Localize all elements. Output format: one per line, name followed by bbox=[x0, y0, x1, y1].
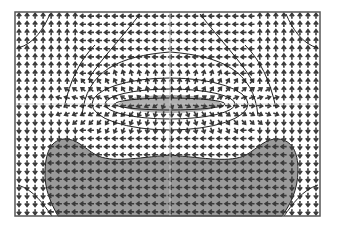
vector-arrow-icon bbox=[33, 177, 37, 183]
vector-arrow-icon bbox=[298, 111, 302, 117]
vector-arrow-icon bbox=[25, 144, 29, 150]
vector-arrow-icon bbox=[161, 63, 167, 67]
vector-arrow-icon bbox=[25, 201, 29, 207]
vector-arrow-icon bbox=[153, 144, 159, 148]
vector-arrow-icon bbox=[33, 136, 37, 142]
vector-arrow-icon bbox=[25, 13, 29, 19]
vector-arrow-icon bbox=[41, 70, 45, 76]
vector-arrow-icon bbox=[25, 209, 29, 215]
vector-arrow-icon bbox=[298, 79, 302, 85]
vector-arrow-icon bbox=[113, 22, 119, 26]
vector-arrow-icon bbox=[258, 136, 262, 142]
vector-arrow-icon bbox=[145, 30, 151, 34]
vector-arrow-icon bbox=[225, 55, 231, 59]
vector-arrow-icon bbox=[241, 14, 247, 18]
vector-arrow-icon bbox=[201, 22, 207, 26]
vector-arrow-icon bbox=[65, 46, 69, 52]
vector-arrow-icon bbox=[298, 46, 302, 52]
vector-arrow-icon bbox=[258, 38, 262, 44]
vector-arrow-icon bbox=[33, 46, 37, 52]
vector-arrow-icon bbox=[33, 144, 37, 150]
vector-arrow-icon bbox=[298, 209, 302, 215]
vector-arrow-icon bbox=[73, 88, 78, 92]
vector-arrow-icon bbox=[17, 177, 21, 183]
vector-arrow-icon bbox=[137, 22, 143, 26]
vector-arrow-icon bbox=[233, 153, 239, 157]
vector-arrow-icon bbox=[41, 62, 45, 68]
vector-arrow-icon bbox=[105, 144, 111, 148]
vector-arrow-icon bbox=[266, 13, 270, 19]
vector-arrow-icon bbox=[49, 70, 53, 76]
vector-arrow-icon bbox=[306, 95, 310, 101]
vector-arrow-icon bbox=[25, 95, 29, 101]
vector-arrow-icon bbox=[306, 168, 310, 174]
vector-arrow-icon bbox=[306, 111, 310, 117]
vector-arrow-icon bbox=[177, 136, 183, 140]
vector-arrow-icon bbox=[258, 70, 262, 76]
vector-arrow-icon bbox=[185, 153, 191, 157]
vector-arrow-icon bbox=[258, 30, 262, 36]
vector-arrow-icon bbox=[113, 14, 119, 18]
vector-arrow-icon bbox=[80, 38, 86, 42]
vector-arrow-icon bbox=[314, 30, 318, 36]
vector-arrow-icon bbox=[209, 14, 215, 18]
vector-arrow-icon bbox=[201, 144, 207, 148]
vector-arrow-icon bbox=[17, 136, 21, 142]
vector-arrow-icon bbox=[73, 96, 78, 100]
vector-arrow-icon bbox=[65, 128, 69, 134]
vector-arrow-icon bbox=[89, 128, 95, 132]
vector-arrow-icon bbox=[41, 79, 45, 85]
vector-arrow-icon bbox=[274, 21, 278, 27]
vector-arrow-icon bbox=[33, 54, 37, 60]
vector-arrow-icon bbox=[314, 144, 318, 150]
vector-arrow-icon bbox=[81, 112, 86, 116]
vector-arrow-icon bbox=[225, 22, 231, 26]
vector-arrow-icon bbox=[97, 14, 103, 18]
vector-arrow-icon bbox=[146, 111, 150, 116]
vector-arrow-icon bbox=[306, 70, 310, 76]
vector-arrow-icon bbox=[41, 128, 45, 134]
vector-arrow-icon bbox=[65, 70, 69, 76]
vector-arrow-icon bbox=[129, 71, 133, 76]
vector-arrow-icon bbox=[129, 30, 135, 34]
vector-arrow-icon bbox=[226, 79, 230, 84]
vector-arrow-icon bbox=[282, 46, 286, 52]
vector-arrow-icon bbox=[193, 153, 199, 157]
vector-arrow-icon bbox=[241, 22, 247, 26]
vector-arrow-icon bbox=[209, 47, 215, 51]
vector-arrow-icon bbox=[290, 62, 294, 68]
vector-arrow-icon bbox=[242, 88, 246, 92]
vector-arrow-icon bbox=[17, 79, 21, 85]
vector-arrow-icon bbox=[121, 153, 127, 157]
vector-arrow-icon bbox=[80, 136, 86, 140]
vector-arrow-icon bbox=[314, 70, 318, 76]
vector-arrow-icon bbox=[137, 71, 141, 76]
vector-arrow-icon bbox=[233, 38, 239, 42]
vector-arrow-icon bbox=[193, 14, 199, 18]
vector-arrow-icon bbox=[306, 193, 310, 199]
vector-arrow-icon bbox=[290, 209, 294, 215]
vector-arrow-icon bbox=[225, 14, 231, 18]
vector-arrow-icon bbox=[105, 14, 111, 18]
vector-arrow-icon bbox=[177, 38, 183, 42]
vector-arrow-icon bbox=[153, 119, 157, 124]
vector-arrow-icon bbox=[249, 71, 255, 75]
vector-arrow-icon bbox=[121, 96, 126, 100]
vector-arrow-icon bbox=[33, 30, 37, 36]
vector-arrow-icon bbox=[306, 136, 310, 142]
vector-arrow-icon bbox=[193, 144, 199, 148]
vector-arrow-icon bbox=[193, 47, 199, 51]
vector-arrow-icon bbox=[41, 46, 45, 52]
vector-arrow-icon bbox=[314, 168, 318, 174]
vector-field-figure bbox=[0, 0, 337, 227]
vector-arrow-icon bbox=[290, 46, 294, 52]
vector-arrow-icon bbox=[33, 128, 37, 134]
vector-arrow-icon bbox=[113, 55, 119, 59]
vector-arrow-icon bbox=[98, 79, 102, 84]
vector-arrow-icon bbox=[217, 136, 223, 140]
vector-arrow-icon bbox=[233, 96, 238, 100]
vector-arrow-icon bbox=[298, 160, 302, 166]
vector-arrow-icon bbox=[33, 152, 37, 158]
vector-arrow-icon bbox=[89, 55, 95, 59]
vector-arrow-icon bbox=[33, 21, 37, 27]
